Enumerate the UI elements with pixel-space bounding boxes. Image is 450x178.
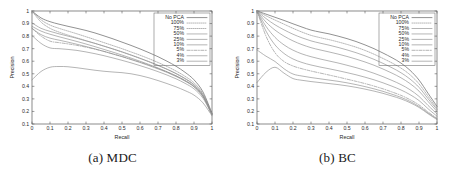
y-tick-label: 0.3 — [22, 96, 29, 102]
panel-caption-bc: (b) BC — [225, 150, 450, 166]
x-tick-label: 0.6 — [361, 125, 368, 131]
y-axis-title: Precision — [234, 56, 240, 78]
series-line — [32, 28, 212, 114]
y-tick-label: 0.1 — [22, 121, 29, 127]
x-tick-label: 0.7 — [154, 125, 161, 131]
series-line — [32, 66, 212, 115]
x-tick-label: 0 — [256, 125, 259, 131]
figure-panel-bc: 00.10.20.30.40.50.60.70.80.910.10.20.30.… — [225, 0, 450, 178]
y-tick-label: 0.9 — [247, 20, 254, 26]
x-tick-label: 1 — [211, 125, 214, 131]
y-tick-label: 1 — [26, 8, 29, 14]
y-tick-label: 0.5 — [22, 71, 29, 77]
series-line — [32, 11, 212, 114]
x-tick-label: 0.8 — [172, 125, 179, 131]
y-tick-label: 0.5 — [247, 71, 254, 77]
figure-panel-mdc: 00.10.20.30.40.50.60.70.80.910.10.20.30.… — [0, 0, 225, 178]
x-tick-label: 0.1 — [271, 125, 278, 131]
y-tick-label: 0.8 — [22, 33, 29, 39]
x-tick-label: 0.5 — [118, 125, 125, 131]
series-line — [257, 11, 437, 114]
series-line — [32, 28, 212, 114]
y-tick-label: 0.3 — [247, 96, 254, 102]
legend-label: 3% — [402, 57, 410, 63]
y-tick-label: 0.6 — [22, 58, 29, 64]
y-tick-label: 0.8 — [247, 33, 254, 39]
series-line — [257, 11, 437, 106]
x-tick-label: 0.4 — [325, 125, 332, 131]
series-line — [32, 26, 212, 114]
figure-row: 00.10.20.30.40.50.60.70.80.910.10.20.30.… — [0, 0, 450, 178]
panel-caption-mdc: (a) MDC — [0, 150, 225, 166]
x-tick-label: 0.2 — [64, 125, 71, 131]
x-tick-label: 1 — [436, 125, 439, 131]
y-tick-label: 0.4 — [247, 83, 254, 89]
y-axis-title: Precision — [9, 56, 15, 78]
x-tick-label: 0.1 — [46, 125, 53, 131]
y-tick-label: 0.7 — [247, 46, 254, 52]
y-tick-label: 0.7 — [22, 46, 29, 52]
y-tick-label: 1 — [251, 8, 254, 14]
series-line — [257, 11, 437, 118]
x-tick-label: 0.3 — [82, 125, 89, 131]
x-tick-label: 0.8 — [397, 125, 404, 131]
y-tick-label: 0.1 — [247, 121, 254, 127]
x-axis-title: Recall — [115, 134, 130, 140]
series-line — [32, 11, 212, 114]
series-line — [32, 35, 212, 114]
x-tick-label: 0.5 — [343, 125, 350, 131]
x-tick-label: 0.7 — [379, 125, 386, 131]
y-tick-label: 0.9 — [22, 20, 29, 26]
x-tick-label: 0.9 — [190, 125, 197, 131]
x-tick-label: 0.4 — [100, 125, 107, 131]
series-line — [257, 11, 437, 116]
y-tick-label: 0.6 — [247, 58, 254, 64]
x-tick-label: 0.2 — [289, 125, 296, 131]
series-line — [257, 11, 437, 108]
series-line — [32, 11, 212, 113]
legend-label: 3% — [177, 57, 185, 63]
x-tick-label: 0.9 — [415, 125, 422, 131]
plot-area-mdc: 00.10.20.30.40.50.60.70.80.910.10.20.30.… — [0, 0, 225, 150]
y-tick-label: 0.2 — [22, 108, 29, 114]
x-axis-title: Recall — [340, 134, 355, 140]
series-line — [257, 50, 437, 119]
precision-recall-chart-mdc: 00.10.20.30.40.50.60.70.80.910.10.20.30.… — [0, 0, 225, 150]
x-tick-label: 0 — [31, 125, 34, 131]
y-tick-label: 0.2 — [247, 108, 254, 114]
x-tick-label: 0.3 — [307, 125, 314, 131]
x-tick-label: 0.6 — [136, 125, 143, 131]
y-tick-label: 0.4 — [22, 83, 29, 89]
precision-recall-chart-bc: 00.10.20.30.40.50.60.70.80.910.10.20.30.… — [225, 0, 450, 150]
plot-area-bc: 00.10.20.30.40.50.60.70.80.910.10.20.30.… — [225, 0, 450, 150]
